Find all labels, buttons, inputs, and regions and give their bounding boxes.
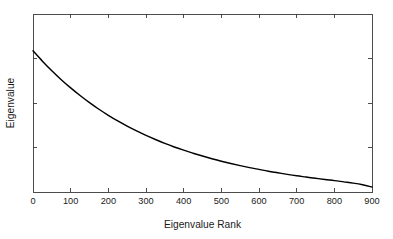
x-tick-label: 0 (30, 196, 35, 206)
eigenvalue-line-chart: 0100200300400500600700800900 Eigenvalue … (0, 0, 393, 239)
chart-figure: 0100200300400500600700800900 Eigenvalue … (0, 0, 393, 239)
x-tick-label: 200 (101, 196, 116, 206)
y-axis-title: Eigenvalue (5, 77, 16, 128)
x-tick-label: 700 (289, 196, 304, 206)
x-tick-label: 600 (251, 196, 266, 206)
x-tick-label: 100 (63, 196, 78, 206)
x-tick-label: 900 (364, 196, 379, 206)
x-tick-label: 300 (138, 196, 153, 206)
x-tick-label: 500 (214, 196, 229, 206)
x-tick-label: 400 (176, 196, 191, 206)
x-tick-label: 800 (327, 196, 342, 206)
x-axis-title: Eigenvalue Rank (164, 219, 242, 230)
x-tick-label-group: 0100200300400500600700800900 (30, 196, 379, 206)
plot-area-background (33, 14, 372, 192)
